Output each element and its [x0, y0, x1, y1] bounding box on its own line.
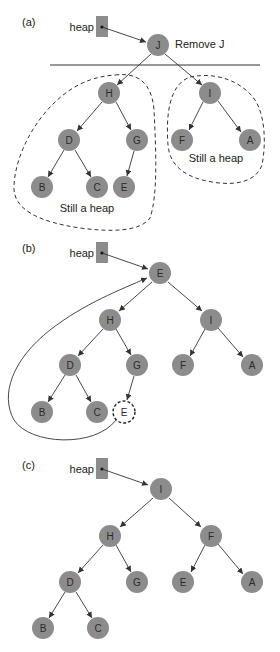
svg-text:E: E: [121, 407, 128, 418]
svg-text:C: C: [93, 182, 100, 193]
svg-text:B: B: [39, 182, 46, 193]
edge: [119, 282, 152, 311]
edge: [127, 151, 134, 176]
node-E-removed-slot: E: [113, 401, 135, 423]
node-C: C: [86, 176, 108, 198]
edge: [48, 375, 65, 402]
node-D: D: [59, 354, 81, 376]
svg-text:E: E: [157, 268, 164, 279]
svg-text:G: G: [133, 135, 141, 146]
edge: [49, 592, 65, 618]
svg-text:A: A: [247, 135, 254, 146]
edge: [48, 150, 64, 177]
heap-pointer-arrow: [102, 469, 148, 485]
node-C: C: [86, 401, 108, 423]
edge: [78, 545, 103, 573]
heap-removal-diagram: (a) heap Remove J Still a heap Still a h…: [0, 0, 280, 652]
svg-text:H: H: [106, 315, 113, 326]
panel-b: (b) heap E H I D G F A B C E: [8, 242, 263, 440]
node-I: I: [199, 82, 221, 104]
svg-text:F: F: [180, 360, 186, 371]
svg-text:C: C: [93, 407, 100, 418]
node-G: G: [126, 129, 148, 151]
node-B: B: [31, 176, 53, 198]
edge: [218, 544, 243, 574]
panel-a: (a) heap Remove J Still a heap Still a h…: [14, 16, 264, 230]
svg-text:I: I: [160, 484, 163, 495]
node-I-root: I: [150, 478, 172, 500]
node-E-root: E: [149, 262, 171, 284]
edge: [76, 375, 91, 402]
svg-text:H: H: [106, 531, 113, 542]
heap-pointer-arrow: [102, 27, 146, 42]
edge: [116, 545, 131, 572]
node-D: D: [59, 571, 81, 593]
node-H: H: [99, 525, 121, 547]
node-E: E: [113, 176, 135, 198]
svg-text:A: A: [249, 360, 256, 371]
edge: [78, 329, 103, 356]
svg-text:G: G: [133, 577, 141, 588]
edge: [165, 54, 202, 85]
remove-annotation: Remove J: [175, 38, 225, 50]
edge: [189, 102, 203, 130]
still-heap-label-right: Still a heap: [189, 152, 243, 164]
node-D: D: [58, 129, 80, 151]
node-G: G: [126, 354, 148, 376]
svg-text:E: E: [121, 182, 128, 193]
edge: [117, 54, 151, 85]
node-H: H: [99, 309, 121, 331]
svg-text:E: E: [180, 577, 187, 588]
node-H: H: [98, 82, 120, 104]
node-B: B: [32, 617, 54, 639]
svg-text:D: D: [66, 577, 73, 588]
node-C: C: [87, 617, 109, 639]
panel-label-c: (c): [22, 459, 35, 471]
node-A: A: [241, 571, 263, 593]
edge: [169, 498, 201, 527]
svg-text:F: F: [208, 531, 214, 542]
still-heap-label-left: Still a heap: [60, 202, 114, 214]
panel-label-a: (a): [22, 16, 35, 28]
edge: [76, 592, 92, 618]
edge: [218, 101, 241, 132]
heap-label: heap: [70, 463, 94, 475]
node-A: A: [241, 354, 263, 376]
svg-text:H: H: [105, 88, 112, 99]
edge: [120, 498, 153, 527]
edge: [116, 329, 131, 355]
edge: [77, 102, 102, 131]
edge: [127, 376, 134, 400]
panel-label-b: (b): [22, 242, 35, 254]
node-F: F: [172, 354, 194, 376]
svg-text:D: D: [65, 135, 72, 146]
node-B: B: [31, 401, 53, 423]
svg-text:G: G: [133, 360, 141, 371]
node-I: I: [200, 309, 222, 331]
node-A: A: [239, 129, 261, 151]
svg-text:I: I: [209, 88, 212, 99]
svg-text:F: F: [179, 135, 185, 146]
svg-text:C: C: [94, 623, 101, 634]
node-F: F: [171, 129, 193, 151]
node-J: J: [147, 34, 169, 56]
svg-text:I: I: [210, 315, 213, 326]
edge: [116, 102, 131, 130]
svg-text:B: B: [40, 623, 47, 634]
edge: [190, 329, 205, 356]
edge: [218, 328, 243, 357]
node-G: G: [126, 571, 148, 593]
panel-c: (c) heap I H F D G E A B C: [22, 458, 263, 639]
node-F: F: [200, 525, 222, 547]
heap-pointer-arrow: [102, 253, 148, 269]
svg-text:J: J: [156, 40, 161, 51]
edge: [191, 545, 205, 572]
edge: [75, 150, 91, 177]
node-E: E: [172, 571, 194, 593]
svg-text:B: B: [39, 407, 46, 418]
heap-label: heap: [70, 21, 94, 33]
heap-label: heap: [70, 247, 94, 259]
svg-text:A: A: [249, 577, 256, 588]
edge: [168, 282, 202, 311]
svg-text:D: D: [66, 360, 73, 371]
